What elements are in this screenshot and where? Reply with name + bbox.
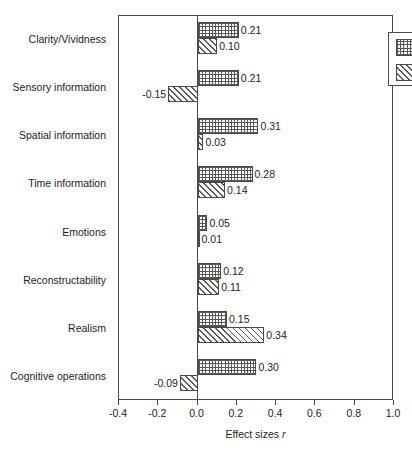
bar-other-ratings [198, 279, 220, 295]
x-axis-tick-label: -0.4 [98, 407, 138, 420]
bar-value-label: 0.14 [227, 182, 247, 198]
bar-value-label: 0.21 [241, 22, 261, 38]
x-axis-title-text: Effect sizes [226, 428, 280, 440]
bar-value-label: 0.15 [229, 311, 249, 327]
bar-self-ratings [198, 263, 222, 279]
category-label: Cognitive operations [10, 370, 106, 382]
category-label: Emotions [62, 226, 106, 238]
x-axis-tick [236, 400, 237, 405]
x-axis-tick-label: 0.0 [177, 407, 217, 420]
x-axis-tick [314, 400, 315, 405]
bar-value-label: -0.09 [154, 375, 178, 391]
bar-value-label: 0.03 [205, 134, 225, 150]
bar-other-ratings [198, 38, 218, 54]
diagonal-hatch-swatch [396, 64, 412, 81]
bar-self-ratings [198, 118, 259, 134]
bar-value-label: 0.31 [260, 118, 280, 134]
x-axis-tick [157, 400, 158, 405]
bar-self-ratings [198, 166, 253, 182]
bar-other-ratings [198, 182, 226, 198]
bar-value-label: 0.34 [266, 327, 286, 343]
bar-other-ratings [180, 375, 198, 391]
x-axis-title: Effect sizes r [118, 428, 393, 440]
effect-size-bar-chart: Clarity/VividnessSensory informationSpat… [0, 0, 412, 458]
category-label: Spatial information [19, 129, 106, 141]
x-axis-tick-label: -0.2 [137, 407, 177, 420]
bar-value-label: 0.30 [259, 359, 279, 375]
bar-other-ratings [198, 231, 200, 247]
bar-value-label: 0.21 [241, 70, 261, 86]
bar-value-label: 0.10 [219, 38, 239, 54]
x-axis-title-symbol: r [282, 428, 286, 440]
bar-self-ratings [198, 70, 239, 86]
category-label: Time information [28, 177, 106, 189]
x-axis-tick [393, 400, 394, 405]
category-label: Reconstructability [23, 274, 106, 286]
x-axis-tick-label: 0.2 [216, 407, 256, 420]
bar-value-label: 0.01 [202, 231, 222, 247]
bar-value-label: -0.15 [142, 86, 166, 102]
category-label: Realism [68, 322, 106, 334]
x-axis-tick-label: 0.8 [334, 407, 374, 420]
x-axis-tick [275, 400, 276, 405]
bar-value-label: 0.11 [221, 279, 241, 295]
bar-other-ratings [198, 134, 204, 150]
bar-self-ratings [198, 22, 239, 38]
bar-value-label: 0.28 [255, 166, 275, 182]
bar-value-label: 0.12 [223, 263, 243, 279]
chart-legend: Self-ratingsOther-ratings [388, 32, 412, 86]
bar-self-ratings [198, 311, 227, 327]
category-label: Clarity/Vividness [29, 33, 106, 45]
x-axis-tick-label: 1.0 [373, 407, 412, 420]
bar-self-ratings [198, 359, 257, 375]
x-axis-tick-label: 0.4 [255, 407, 295, 420]
plot-area: 0.210.100.21-0.150.310.030.280.140.050.0… [118, 15, 393, 400]
x-axis-tick-label: 0.6 [294, 407, 334, 420]
cross-hatch-swatch [396, 39, 412, 56]
x-axis-tick [354, 400, 355, 405]
category-label: Sensory information [13, 81, 106, 93]
bar-other-ratings [168, 86, 197, 102]
bar-self-ratings [198, 215, 208, 231]
x-axis-tick [197, 400, 198, 405]
bar-other-ratings [198, 327, 265, 343]
bar-value-label: 0.05 [209, 215, 229, 231]
x-axis-tick [118, 400, 119, 405]
